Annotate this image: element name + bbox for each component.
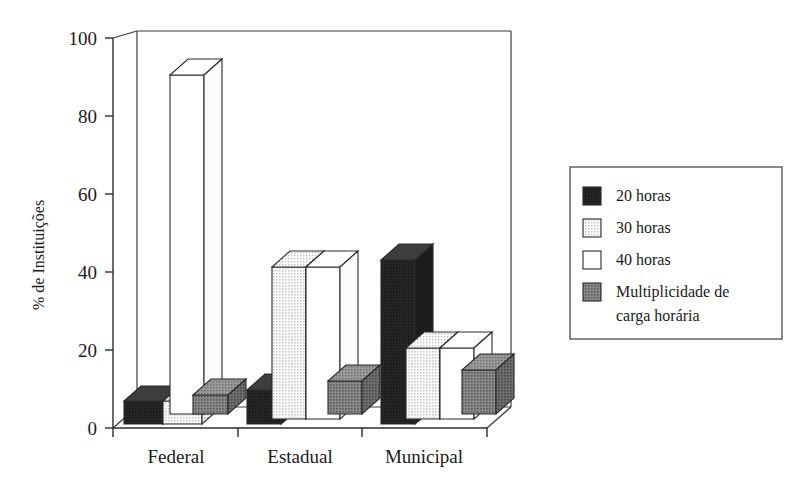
legend-label-multiplicidade-line1: Multiplicidade de (616, 283, 729, 301)
bar-group-federal (124, 59, 246, 424)
legend-item-40-horas[interactable]: 40 horas (583, 251, 671, 269)
y-tick-label-100: 100 (69, 28, 98, 49)
legend-swatch-30-horas (583, 219, 601, 237)
chart-figure: 100 80 60 40 20 0 % de Instituições (0, 0, 798, 493)
x-category-label-federal: Federal (148, 446, 205, 467)
legend-label-40-horas: 40 horas (616, 251, 671, 268)
y-tick-label-20: 20 (78, 340, 97, 361)
legend-item-30-horas[interactable]: 30 horas (583, 219, 671, 237)
legend-label-20-horas: 20 horas (616, 187, 671, 204)
legend-swatch-multiplicidade (583, 283, 601, 301)
bar-federal-40h (170, 59, 222, 414)
bar-group-municipal (381, 244, 514, 424)
y-tick-label-80: 80 (78, 106, 97, 127)
bar-municipal-mult (462, 354, 514, 414)
y-tick-label-40: 40 (78, 262, 97, 283)
legend-label-multiplicidade-line2: carga horária (616, 307, 700, 325)
y-axis-title: % de Instituições (30, 200, 48, 310)
x-category-label-municipal: Municipal (385, 446, 463, 467)
y-tick-label-60: 60 (78, 184, 97, 205)
legend-item-20-horas[interactable]: 20 horas (583, 187, 671, 205)
legend-label-30-horas: 30 horas (616, 219, 671, 236)
x-category-label-estadual: Estadual (267, 446, 332, 467)
x-axis-ticks (113, 428, 487, 437)
y-axis-ticks: 100 80 60 40 20 0 (69, 28, 114, 439)
bar-chart-3d: 100 80 60 40 20 0 % de Instituições (0, 0, 798, 493)
bar-group-estadual (247, 251, 380, 424)
chart-legend: 20 horas 30 horas 40 horas Multiplicidad… (570, 167, 782, 339)
legend-swatch-40-horas (583, 251, 601, 269)
y-tick-label-0: 0 (88, 418, 98, 439)
top-left-depth (113, 31, 137, 38)
legend-swatch-20-horas (583, 187, 601, 205)
